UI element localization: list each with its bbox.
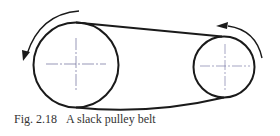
belt-bottom-span [76, 98, 224, 110]
figure-caption: Fig. 2.18A slack pulley belt [14, 112, 156, 127]
large-pulley [34, 23, 119, 108]
caption-text: A slack pulley belt [66, 112, 156, 126]
rotation-arrow-left-icon [22, 11, 79, 61]
small-pulley [194, 37, 255, 98]
caption-number: Fig. 2.18 [14, 112, 57, 126]
